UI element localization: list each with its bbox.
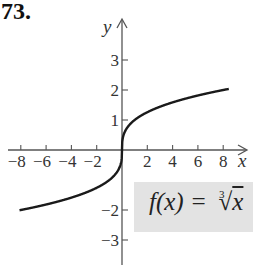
y-tick-label: −3 — [101, 231, 119, 250]
function-lhs: f(x) = — [149, 188, 213, 215]
y-tick-label: −2 — [101, 201, 119, 220]
x-tick-label: 2 — [143, 152, 152, 171]
problem-number: 73. — [1, 0, 31, 25]
y-tick-label: 1 — [111, 111, 120, 130]
x-tick-label: −8 — [8, 152, 26, 171]
x-tick-label: 4 — [168, 152, 177, 171]
x-tick-label: −4 — [58, 152, 77, 171]
y-tick-label: 2 — [111, 81, 120, 100]
function-label: f(x) = 3√x — [149, 188, 243, 216]
x-tick-label: −2 — [84, 152, 102, 171]
x-tick-label: 6 — [194, 152, 203, 171]
root-index: 3 — [219, 188, 225, 200]
x-tick-label: −6 — [33, 152, 51, 171]
x-axis-label: x — [237, 150, 247, 171]
y-tick-label: 3 — [111, 51, 120, 70]
y-axis-label: y — [101, 16, 112, 37]
radicand: x — [232, 188, 243, 215]
x-tick-label: 8 — [219, 152, 228, 171]
